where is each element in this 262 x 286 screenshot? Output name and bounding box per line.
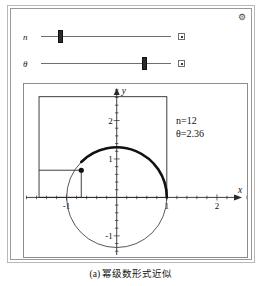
y-axis-label: y bbox=[121, 86, 127, 96]
screenshot-root: ⚙ n θ bbox=[0, 0, 262, 286]
slider-theta-handle[interactable] bbox=[142, 57, 147, 70]
outer-rectangle bbox=[39, 97, 167, 198]
slider-n-label: n bbox=[23, 29, 37, 45]
axes bbox=[26, 88, 242, 255]
y-tick-label: -1 bbox=[105, 231, 113, 241]
y-tick-label: 1 bbox=[108, 154, 113, 164]
slider-theta-track[interactable] bbox=[41, 63, 171, 64]
y-axis-arrow bbox=[114, 88, 120, 95]
slider-theta-label: θ bbox=[23, 56, 37, 72]
plot-canvas[interactable]: -112-112 x y n=12 θ=2.36 bbox=[24, 84, 247, 257]
slider-theta-options-box[interactable] bbox=[178, 60, 185, 67]
highlighted-arc bbox=[81, 147, 167, 197]
terminal-point[interactable] bbox=[79, 168, 84, 173]
inner-rectangle bbox=[39, 170, 81, 197]
slider-theta[interactable]: θ bbox=[23, 56, 191, 72]
slider-n[interactable]: n bbox=[23, 29, 191, 45]
x-axis-label: x bbox=[237, 185, 243, 195]
slider-panel: n θ bbox=[11, 25, 251, 80]
gear-icon[interactable]: ⚙ bbox=[237, 13, 246, 22]
annotation-n: n=12 bbox=[176, 115, 197, 126]
slider-n-options-box[interactable] bbox=[178, 33, 185, 40]
graphics-view[interactable]: -112-112 x y n=12 θ=2.36 bbox=[23, 83, 248, 258]
x-tick-label: 2 bbox=[215, 201, 220, 211]
applet-window-inner: ⚙ n θ bbox=[10, 8, 252, 260]
y-tick-label: 2 bbox=[108, 116, 113, 126]
annotation-theta: θ=2.36 bbox=[176, 128, 204, 139]
applet-window: ⚙ n θ bbox=[7, 5, 255, 263]
slider-n-handle[interactable] bbox=[58, 30, 63, 43]
figure-caption: (a) 幂级数形式近似 bbox=[0, 266, 262, 280]
